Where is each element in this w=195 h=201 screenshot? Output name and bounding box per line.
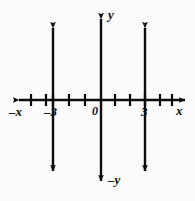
axes-diagram	[0, 0, 195, 201]
coordinate-plane-figure: –x x y –y –3 0 3	[0, 0, 195, 201]
origin-label: 0	[92, 105, 98, 117]
positive-x-axis-label: x	[176, 104, 183, 117]
negative-y-axis-label: –y	[108, 173, 120, 186]
x-tick-label-plus-3: 3	[141, 105, 148, 118]
negative-x-axis-label: –x	[9, 105, 22, 118]
x-tick-label-minus-3: –3	[44, 105, 57, 118]
positive-y-axis-label: y	[108, 8, 114, 21]
